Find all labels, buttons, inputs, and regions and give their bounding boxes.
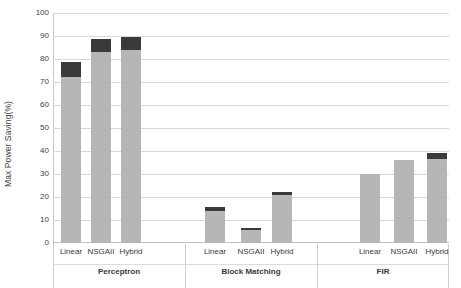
bar-segment-dark	[121, 37, 141, 50]
bar-segment-dark	[272, 192, 292, 194]
chart-container: Max Power Saving(%) 100 90 80 70 60 50 4…	[0, 0, 461, 288]
group-separator-start	[53, 244, 54, 288]
y-tick-80: 80	[5, 55, 49, 63]
bar-segment-light	[241, 230, 261, 243]
bar-segment-dark	[91, 39, 111, 52]
bar-fir-hybrid	[427, 13, 447, 243]
y-tick-30: 30	[5, 170, 49, 178]
group-separator-1	[185, 244, 186, 288]
bar-segment-dark	[61, 62, 81, 77]
bar-blockmatching-linear	[205, 13, 225, 243]
group-label-fir: FIR	[377, 267, 390, 277]
bar-blockmatching-hybrid	[272, 13, 292, 243]
bar-segment-light	[205, 211, 225, 243]
bar-perceptron-nsgaii	[91, 13, 111, 243]
category-row-divider	[53, 264, 449, 265]
y-tick-0: 0	[5, 239, 49, 247]
y-tick-40: 40	[5, 147, 49, 155]
bar-segment-light	[360, 174, 380, 243]
category-label-fir-nsgaii: NSGAII	[390, 247, 417, 257]
bar-fir-linear	[360, 13, 380, 243]
y-tick-70: 70	[5, 78, 49, 86]
category-label-fir-hybrid: Hybrid	[425, 247, 448, 257]
bar-segment-light	[427, 159, 447, 243]
bar-segment-light	[61, 77, 81, 243]
group-separator-2	[317, 244, 318, 288]
plot-area	[53, 13, 449, 243]
category-label-perceptron-linear: Linear	[60, 247, 82, 257]
category-label-perceptron-hybrid: Hybrid	[119, 247, 142, 257]
bar-blockmatching-nsgaii	[241, 13, 261, 243]
bar-perceptron-linear	[61, 13, 81, 243]
group-label-perceptron: Perceptron	[98, 267, 140, 277]
category-label-perceptron-nsgaii: NSGAII	[87, 247, 114, 257]
y-tick-50: 50	[5, 124, 49, 132]
category-label-blockmatching-nsgaii: NSGAII	[237, 247, 264, 257]
bar-segment-light	[272, 195, 292, 243]
bar-segment-light	[91, 52, 111, 243]
bar-segment-dark	[241, 228, 261, 230]
y-tick-90: 90	[5, 32, 49, 40]
y-tick-100: 100	[5, 9, 49, 17]
group-label-blockmatching: Block Matching	[221, 267, 280, 277]
bar-fir-nsgaii	[394, 13, 414, 243]
category-label-blockmatching-linear: Linear	[204, 247, 226, 257]
bar-perceptron-hybrid	[121, 13, 141, 243]
bar-segment-dark	[427, 153, 447, 159]
y-tick-10: 10	[5, 216, 49, 224]
category-label-fir-linear: Linear	[359, 247, 381, 257]
bar-segment-light	[394, 160, 414, 243]
bar-segment-light	[121, 50, 141, 243]
y-tick-60: 60	[5, 101, 49, 109]
category-label-blockmatching-hybrid: Hybrid	[270, 247, 293, 257]
y-tick-20: 20	[5, 193, 49, 201]
x-axis-categories: Linear NSGAII Hybrid Perceptron Linear N…	[53, 244, 449, 288]
bar-segment-dark	[205, 207, 225, 211]
y-axis-tick-labels: 100 90 80 70 60 50 40 30 20 10 0	[0, 13, 49, 243]
